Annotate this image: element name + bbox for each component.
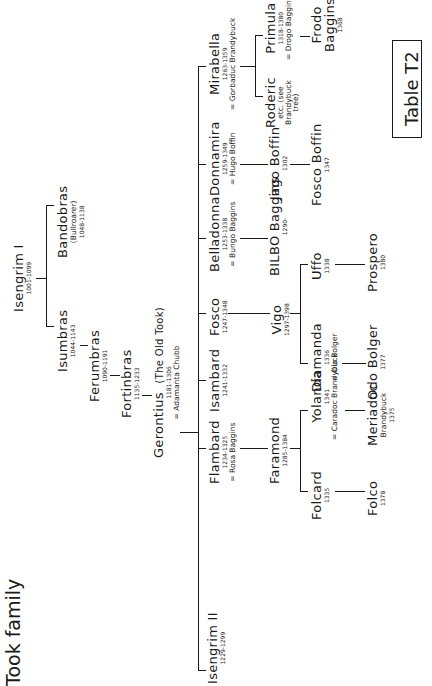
connector bbox=[198, 238, 206, 239]
connector bbox=[255, 96, 263, 97]
connector bbox=[345, 410, 365, 411]
took-family-tree: Took family Table T2 Isengrim I 1001-109… bbox=[0, 0, 432, 686]
connector bbox=[198, 313, 206, 314]
connector bbox=[300, 410, 301, 492]
person-uffo: Uffo 1338 bbox=[310, 252, 330, 280]
person-flambard: Flambard 1234-1325 = Rosa Baggins bbox=[208, 420, 237, 484]
person-prospero: Prospero 1380 bbox=[366, 233, 386, 292]
connector-spine bbox=[198, 66, 199, 670]
person-primula: Primula 1318-1380 = Drogo Baggins bbox=[264, 0, 293, 60]
person-isengrim-ii: Isengrim II 1229-1299 bbox=[206, 612, 226, 684]
person-fosco: Fosco 1247-1348 bbox=[208, 298, 228, 336]
person-isumbras: Isumbras 1044-1143 bbox=[56, 310, 76, 372]
connector bbox=[255, 35, 263, 36]
connector bbox=[300, 264, 308, 265]
person-folcard: Folcard 1335 bbox=[310, 471, 330, 520]
connector bbox=[46, 205, 47, 327]
connector bbox=[198, 380, 206, 381]
connector bbox=[335, 491, 365, 492]
person-isambard: Isambard 1241-1332 bbox=[208, 349, 228, 412]
connector bbox=[228, 313, 270, 314]
connector bbox=[290, 313, 300, 314]
person-yolanda: Yolanda 1341 = Caradoc Brandybuck bbox=[310, 353, 339, 440]
person-fosco-boffin: Fosco Boffin 1347 bbox=[310, 124, 330, 206]
person-bandobras: Bandobras (Bullroarer) 1048-1138 bbox=[56, 186, 85, 258]
connector bbox=[240, 238, 268, 239]
connector bbox=[46, 326, 54, 327]
connector bbox=[300, 410, 308, 411]
person-roderic: Roderic etc. (see Brandybuck tree) bbox=[264, 77, 300, 128]
person-frodo: Frodo Baggins 1368 bbox=[310, 0, 343, 52]
person-gerontius: Gerontius (The Old Took) 1181-1306 = Ada… bbox=[152, 307, 181, 458]
connector bbox=[198, 66, 206, 67]
connector bbox=[46, 205, 54, 206]
connector bbox=[240, 164, 268, 165]
connector bbox=[300, 264, 301, 364]
connector bbox=[198, 164, 206, 165]
connector bbox=[290, 448, 300, 449]
connector bbox=[255, 35, 256, 97]
person-donnamira: Donnamira 1259-1349 = Hugo Boffin bbox=[208, 121, 237, 196]
connector bbox=[198, 448, 206, 449]
connector bbox=[335, 264, 365, 265]
connector bbox=[240, 448, 268, 449]
person-ferumbras: Ferumbras 1090-1191 bbox=[88, 330, 108, 402]
person-fortinbras: Fortinbras 1135-1233 bbox=[120, 349, 140, 418]
person-meriadoc: Meriadoc Brandybuck 1375 bbox=[366, 384, 395, 446]
person-isengrim-i: Isengrim I 1001-1099 bbox=[12, 244, 32, 312]
connector bbox=[180, 432, 198, 433]
connector bbox=[300, 491, 308, 492]
person-bilbo-baggins: BILBO Baggins 1290- bbox=[268, 177, 288, 276]
person-folco: Folco 1378 bbox=[366, 481, 386, 516]
connector bbox=[342, 363, 366, 364]
connector bbox=[290, 164, 310, 165]
person-belladonna: Belladonna 1253-1338 = Bungo Baggins bbox=[208, 196, 237, 272]
table-label: Table T2 bbox=[401, 51, 422, 126]
person-mirabella: Mirabella 1263-1359 = Gorbaduc Brandybuc… bbox=[208, 18, 237, 110]
connector bbox=[36, 278, 46, 279]
person-faramond: Faramond 1285-1384 bbox=[268, 417, 288, 484]
connector bbox=[300, 363, 308, 364]
person-vigo: Vigo 1297-1398 bbox=[270, 303, 290, 336]
diagram-title: Took family bbox=[2, 579, 24, 686]
connector bbox=[240, 66, 255, 67]
table-label-box: Table T2 bbox=[392, 40, 422, 138]
